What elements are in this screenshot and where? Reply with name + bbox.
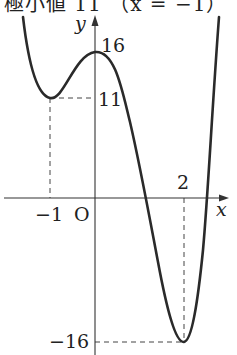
tick-label-neg1: −1 [35, 205, 63, 224]
origin-label: O [74, 205, 90, 224]
y-axis-label: y [75, 14, 86, 33]
curve [23, 17, 219, 342]
x-axis-label: x [216, 200, 227, 219]
y-axis-arrow-icon [92, 15, 99, 26]
tick-label-2: 2 [177, 173, 189, 192]
tick-label-11: 11 [98, 90, 122, 109]
axes [4, 22, 222, 355]
tick-label-neg16: −16 [49, 332, 89, 351]
tick-label-16: 16 [101, 36, 125, 55]
dashed-guides [50, 98, 184, 342]
